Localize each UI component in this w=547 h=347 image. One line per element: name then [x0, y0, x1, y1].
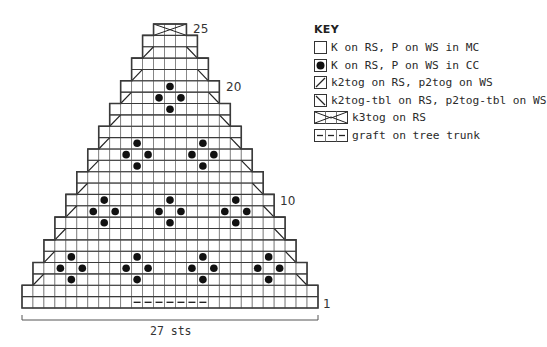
chart-cell [154, 194, 165, 205]
chart-cell [186, 160, 197, 171]
cc-stitch-dot [89, 208, 97, 216]
chart-cell [263, 285, 274, 296]
chart-cell [197, 240, 208, 251]
chart-cell [186, 126, 197, 137]
chart-cell [121, 104, 132, 115]
chart-cell [132, 217, 143, 228]
chart-cell [241, 194, 252, 205]
chart-cell [154, 47, 165, 58]
chart-cell [186, 240, 197, 251]
chart-cell [186, 183, 197, 194]
chart-cell [165, 138, 176, 149]
chart-cell [132, 115, 143, 126]
chart-cell [175, 194, 186, 205]
chart-cell [175, 69, 186, 80]
chart-cell [208, 251, 219, 262]
key-title: KEY [314, 23, 547, 36]
cc-stitch-dot [78, 264, 86, 272]
cc-stitch-dot [133, 253, 141, 261]
chart-cell [197, 172, 208, 183]
chart-cell [132, 240, 143, 251]
chart-cell [110, 126, 121, 137]
cc-stitch-dot [265, 253, 273, 261]
chart-cell [219, 285, 230, 296]
chart-cell [88, 217, 99, 228]
chart-cell [219, 183, 230, 194]
chart-cell [219, 228, 230, 239]
chart-cell [175, 47, 186, 58]
chart-cell [197, 81, 208, 92]
chart-cell [110, 240, 121, 251]
chart-cell [99, 206, 110, 217]
key-label: k2tog-tbl on RS, p2tog-tbl on WS [331, 94, 547, 107]
chart-cell [165, 206, 176, 217]
chart-cell [121, 240, 132, 251]
key-label: graft on tree trunk [352, 129, 480, 142]
chart-cell [99, 251, 110, 262]
chart-cell [165, 149, 176, 160]
chart-cell [121, 251, 132, 262]
chart-cell [186, 172, 197, 183]
chart-cell [88, 149, 99, 160]
chart-cell [22, 285, 33, 296]
chart-cell [263, 217, 274, 228]
chart-cell [44, 240, 55, 251]
chart-cell [143, 35, 154, 46]
chart-cell [110, 228, 121, 239]
chart-cell [175, 172, 186, 183]
chart-cell [263, 194, 274, 205]
chart-cell [186, 58, 197, 69]
chart-cell [175, 58, 186, 69]
chart-cell [219, 126, 230, 137]
chart-cell [143, 172, 154, 183]
chart-cell [55, 240, 66, 251]
cc-stitch-dot [144, 151, 152, 159]
chart-cell [241, 149, 252, 160]
dot-square-icon [314, 59, 327, 72]
chart-cell [186, 285, 197, 296]
chart-cell [186, 194, 197, 205]
chart-cell [99, 172, 110, 183]
graft-dashes-icon [314, 129, 348, 142]
chart-cell [175, 126, 186, 137]
chart-cell [132, 228, 143, 239]
cc-stitch-dot [177, 94, 185, 102]
chart-cell [88, 228, 99, 239]
chart-cell [66, 263, 77, 274]
chart-cell [241, 263, 252, 274]
chart-cell [175, 35, 186, 46]
chart-cell [121, 126, 132, 137]
chart-cell [230, 263, 241, 274]
chart-cell [230, 251, 241, 262]
chart-cell [230, 160, 241, 171]
chart-cell [33, 263, 44, 274]
chart-cell [175, 183, 186, 194]
chart-cell [175, 160, 186, 171]
chart-cell [175, 149, 186, 160]
chart-cell [252, 228, 263, 239]
chart-cell [143, 183, 154, 194]
chart-cell [99, 297, 110, 308]
chart-cell [110, 285, 121, 296]
chart-cell [208, 285, 219, 296]
chart-cell [165, 160, 176, 171]
chart-cell [208, 183, 219, 194]
row-label-20: 20 [226, 80, 241, 94]
cc-stitch-dot [232, 196, 240, 204]
cc-stitch-dot [166, 105, 174, 113]
chart-cell [88, 240, 99, 251]
chart-cell [219, 251, 230, 262]
chart-cell [219, 217, 230, 228]
chart-cell [154, 274, 165, 285]
chart-cell [165, 274, 176, 285]
chart-cell [55, 217, 66, 228]
chart-cell [208, 172, 219, 183]
cc-stitch-dot [199, 162, 207, 170]
chart-cell [197, 92, 208, 103]
chart-cell [154, 149, 165, 160]
chart-cell [121, 297, 132, 308]
chart-cell [88, 297, 99, 308]
chart-cell [197, 228, 208, 239]
chart-cell [77, 217, 88, 228]
chart-cell [175, 228, 186, 239]
